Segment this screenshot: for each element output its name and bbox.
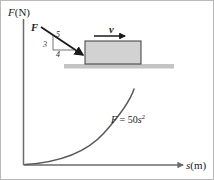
equation-exponent: 2: [142, 113, 145, 120]
force-vector-arrow: [41, 27, 83, 55]
x-axis-label: s(m): [186, 160, 206, 171]
equation-operator: =: [117, 114, 128, 125]
force-displacement-figure: F(N) s(m) F v 5 3 4 F = 50s2: [0, 0, 214, 180]
velocity-vector-label: v: [109, 25, 114, 36]
force-vector-label: F: [31, 23, 38, 34]
ground-surface: [64, 64, 174, 69]
curve-equation-label: F = 50s2: [111, 114, 145, 125]
curve-path: [25, 89, 134, 165]
block-shape: [85, 41, 141, 64]
x-axis-unit: (m): [190, 159, 206, 171]
equation-coefficient: 50: [128, 114, 138, 125]
slope-triangle-horizontal-label: 4: [56, 51, 60, 59]
y-axis-quantity: F: [8, 6, 15, 18]
y-axis-label: F(N): [8, 7, 30, 18]
slope-triangle-vertical-label: 3: [43, 41, 47, 49]
y-axis-unit: (N): [15, 6, 30, 18]
slope-triangle-hypotenuse-label: 5: [56, 31, 60, 39]
